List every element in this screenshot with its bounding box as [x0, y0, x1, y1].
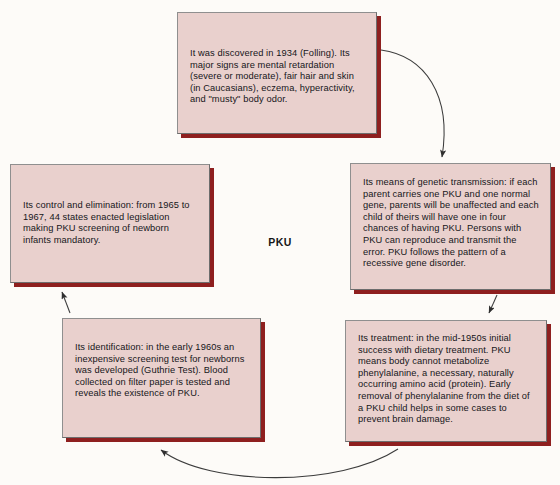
control-box: Its control and elimination: from 1965 t…: [10, 164, 210, 283]
identification-box: Its identification: in the early 1960s a…: [62, 318, 261, 438]
diagram-canvas: It was discovered in 1934 (Folling). Its…: [0, 0, 560, 485]
treatment-box-text: Its treatment: in the mid-1950s initial …: [358, 330, 535, 426]
arrow-discovery-to-transmission: [381, 50, 444, 157]
arrow-identification-to-control: [62, 292, 70, 313]
discovery-box: It was discovered in 1934 (Folling). Its…: [177, 12, 377, 134]
hub-label: PKU: [254, 236, 306, 248]
identification-box-text: Its identification: in the early 1960s a…: [75, 328, 249, 400]
transmission-box: Its means of genetic transmission: if ea…: [350, 163, 551, 290]
arrow-treatment-to-identification: [161, 449, 398, 478]
discovery-box-text: It was discovered in 1934 (Folling). Its…: [190, 22, 365, 106]
control-box-text: Its control and elimination: from 1965 t…: [23, 174, 198, 246]
treatment-box: Its treatment: in the mid-1950s initial …: [345, 320, 547, 442]
transmission-box-text: Its means of genetic transmission: if ea…: [363, 173, 539, 270]
arrow-transmission-to-treatment: [489, 295, 497, 313]
